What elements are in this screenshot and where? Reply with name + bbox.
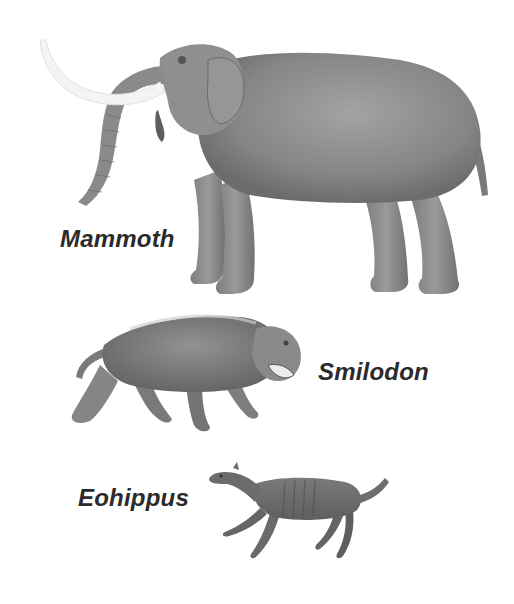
eohippus-label: Eohippus	[78, 484, 189, 512]
mammoth-label: Mammoth	[60, 225, 175, 253]
mammoth-illustration	[30, 30, 500, 300]
smilodon-label: Smilodon	[318, 358, 429, 386]
animal-comparison-figure: Mammoth Smil	[0, 0, 514, 604]
eohippus-illustration	[205, 458, 395, 563]
smilodon-illustration	[60, 305, 310, 440]
